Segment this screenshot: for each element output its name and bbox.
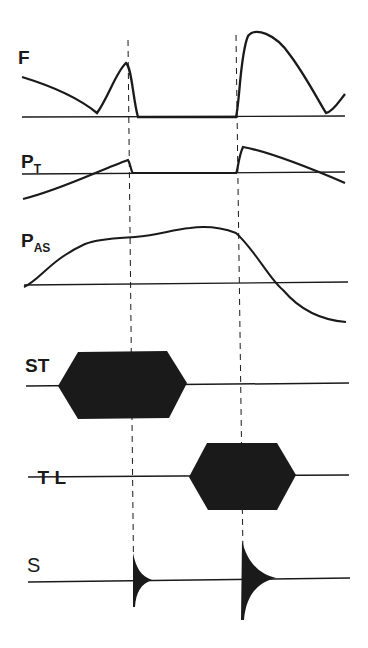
s-sound-1 (133, 553, 152, 607)
baseline-tl (28, 475, 349, 477)
trace-f (22, 32, 345, 117)
baseline-s (28, 578, 350, 582)
tl-burst (189, 443, 296, 510)
s-sound-2 (241, 540, 276, 620)
st-burst (58, 351, 187, 419)
trace-pt (23, 147, 345, 199)
trace-pas (24, 227, 346, 322)
diagram-canvas (0, 0, 368, 648)
marker-line-1 (128, 40, 134, 610)
baseline-pas (24, 282, 348, 285)
